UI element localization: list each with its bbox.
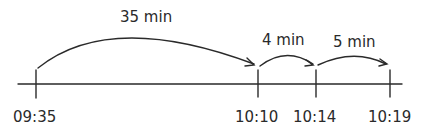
jump-arc-35: [38, 38, 254, 68]
tick-label-0935: 09:35: [13, 108, 56, 126]
jump-label-4: 4 min: [262, 31, 305, 49]
tick-label-1019: 10:19: [368, 108, 411, 126]
tick-label-1010: 10:10: [235, 108, 278, 126]
jump-arc-4: [260, 55, 313, 66]
jump-label-35: 35 min: [120, 8, 172, 26]
jump-arc-5: [318, 56, 386, 65]
jump-label-5: 5 min: [333, 33, 376, 51]
tick-label-1014: 10:14: [293, 108, 336, 126]
time-number-line-diagram: 35 min 4 min 5 min 09:35 10:10 10:14 10:…: [0, 0, 433, 132]
